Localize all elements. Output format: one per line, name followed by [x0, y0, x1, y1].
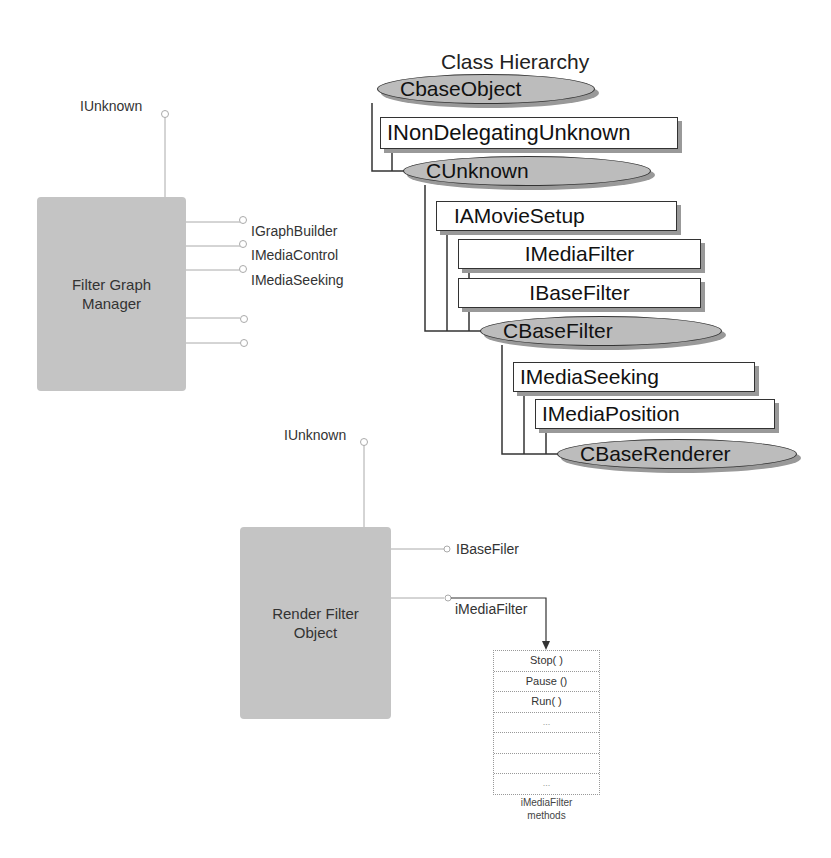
render-interface-imediafilter: iMediaFilter: [455, 601, 527, 617]
render-label-line2: Object: [272, 623, 359, 642]
filter-graph-manager-box: Filter Graph Manager: [37, 197, 186, 391]
interface-node-iamoviesetup: IAMovieSetup: [436, 201, 677, 231]
render-iunknown-label: IUnknown: [284, 427, 346, 443]
method-row: [494, 733, 599, 754]
render-interface-ibasefiler: IBaseFiler: [456, 541, 519, 557]
method-row: [494, 754, 599, 775]
fgm-label-line1: Filter Graph: [72, 275, 151, 294]
imediafilter-methods-table: Stop( ) Pause () Run( ) ... ...: [493, 650, 600, 795]
class-hierarchy-title: Class Hierarchy: [441, 50, 589, 74]
methods-caption: iMediaFilter methods: [493, 796, 600, 822]
method-row: Pause (): [494, 672, 599, 693]
interface-node-ibasefilter: IBaseFilter: [458, 278, 701, 308]
fgm-iunknown-label: IUnknown: [80, 98, 142, 114]
fgm-interface-imediaseeking: IMediaSeeking: [251, 272, 344, 288]
interface-node-imediafilter: IMediaFilter: [458, 239, 701, 269]
render-filter-object-box: Render Filter Object: [240, 527, 391, 719]
interface-node-inondelegatingunknown: INonDelegatingUnknown: [380, 117, 678, 149]
interface-node-imediaseeking: IMediaSeeking: [513, 362, 755, 392]
method-row: ...: [494, 774, 599, 794]
caption-line2: methods: [493, 809, 600, 822]
method-row: ...: [494, 713, 599, 734]
class-node-cbaserenderer: CBaseRenderer: [557, 439, 797, 469]
class-node-cbaseobject: CbaseObject: [377, 74, 595, 104]
fgm-interface-imediacontrol: IMediaControl: [251, 247, 338, 263]
method-row: Run( ): [494, 692, 599, 713]
class-node-cbasefilter: CBaseFilter: [480, 316, 722, 346]
method-row: Stop( ): [494, 651, 599, 672]
class-node-cunknown: CUnknown: [403, 156, 651, 186]
interface-node-imediaposition: IMediaPosition: [535, 399, 775, 429]
fgm-interface-igraphbuilder: IGraphBuilder: [251, 223, 337, 239]
caption-line1: iMediaFilter: [493, 796, 600, 809]
render-label-line1: Render Filter: [272, 604, 359, 623]
fgm-label-line2: Manager: [72, 294, 151, 313]
